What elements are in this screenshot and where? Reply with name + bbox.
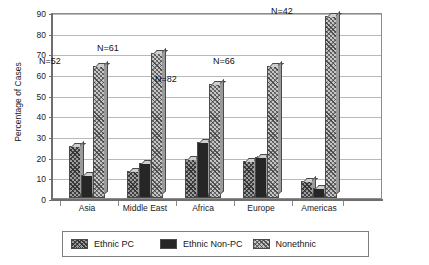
chart-legend: Ethnic PCEthnic Non-PCNonethnic [62, 231, 369, 257]
y-axis-tick-label: 90 [13, 10, 46, 18]
y-axis-tick [49, 179, 53, 180]
x-axis-line [51, 199, 383, 201]
bar-ethnic-non-pc [255, 157, 267, 198]
bar-group [69, 14, 105, 198]
y-axis-tick-label: 20 [13, 155, 46, 163]
bar-ethnic-non-pc [313, 188, 325, 198]
hatch-light-swatch [253, 239, 270, 249]
bar-annotation-n: N=61 [97, 43, 119, 53]
y-axis-tick [49, 200, 53, 201]
bar-side-face [104, 61, 108, 195]
plot-area: 0102030405060708090N=52N=61N=82N=66N=42 [53, 13, 382, 199]
y-axis-tick-label: 10 [13, 175, 46, 183]
y-axis-tick [49, 14, 53, 15]
bar-side-face [162, 48, 166, 195]
y-axis-tick [49, 76, 53, 77]
bar-annotation-n: N=52 [39, 56, 61, 66]
bar-annotation-n: N=82 [155, 74, 177, 84]
solid-black-swatch [160, 239, 177, 249]
y-axis-tick-label: 0 [13, 196, 46, 204]
bar-ethnic-pc [127, 171, 139, 198]
y-axis-tick-label: 30 [13, 134, 46, 142]
bar-side-face [278, 61, 282, 195]
bar-ethnic-non-pc [81, 175, 93, 198]
bar-ethnic-pc [301, 181, 313, 198]
legend-label: Ethnic Non-PC [183, 239, 243, 249]
bar-annotation-n: N=42 [271, 6, 293, 16]
legend-item[interactable]: Ethnic Non-PC [160, 239, 243, 249]
bar-ethnic-pc [69, 146, 81, 198]
y-axis-tick [49, 138, 53, 139]
y-axis-tick-label: 60 [13, 72, 46, 80]
bar-side-face [336, 11, 340, 195]
bar-ethnic-non-pc [139, 163, 151, 198]
bar-nonethnic [209, 84, 221, 198]
bar-group [243, 14, 279, 198]
bar-group [301, 14, 337, 198]
y-axis-tick-label: 40 [13, 113, 46, 121]
bar-nonethnic [325, 16, 337, 198]
bar-ethnic-pc [185, 159, 197, 198]
bar-group [127, 14, 163, 198]
x-axis-category-label: Americas [279, 203, 359, 213]
bar-side-face [220, 79, 224, 195]
legend-label: Nonethnic [276, 239, 317, 249]
chart-container: Percentage of Cases 0102030405060708090N… [0, 0, 429, 265]
legend-item[interactable]: Nonethnic [253, 239, 317, 249]
y-axis-tick [49, 35, 53, 36]
bar-nonethnic [93, 66, 105, 198]
y-axis-tick [49, 97, 53, 98]
bar-ethnic-non-pc [197, 142, 209, 198]
bar-group [185, 14, 221, 198]
bar-ethnic-pc [243, 161, 255, 198]
bar-annotation-n: N=66 [213, 56, 235, 66]
legend-item[interactable]: Ethnic PC [71, 239, 134, 249]
y-axis-tick-label: 80 [13, 31, 46, 39]
y-axis-tick [49, 159, 53, 160]
hatch-dark-swatch [71, 239, 88, 249]
bar-nonethnic [267, 66, 279, 198]
y-axis-tick [49, 117, 53, 118]
legend-label: Ethnic PC [94, 239, 134, 249]
y-axis-tick-label: 50 [13, 93, 46, 101]
